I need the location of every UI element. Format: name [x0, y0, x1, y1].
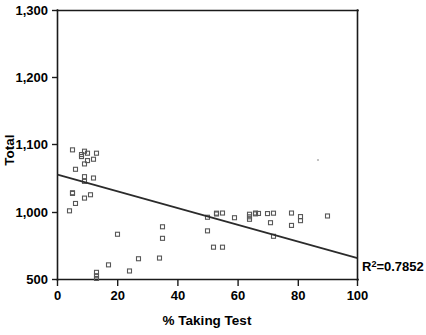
y-tick-label-500: 500 — [26, 272, 48, 287]
data-point — [299, 219, 303, 223]
data-point — [95, 151, 99, 155]
scatter-plot-figure: 1,300 1,200 1,100 1,000 500 0 20 40 60 8… — [0, 0, 426, 335]
data-point — [269, 221, 273, 225]
plot-canvas: 1,300 1,200 1,100 1,000 500 0 20 40 60 8… — [0, 0, 426, 335]
y-axis-tick-labels: 1,300 1,200 1,100 1,000 500 — [15, 3, 48, 287]
data-point — [290, 211, 294, 215]
y-tick-label-1200: 1,200 — [15, 70, 48, 85]
x-axis-tick-labels: 0 20 40 60 80 100 — [54, 288, 368, 303]
regression-trend-line — [58, 175, 358, 258]
data-point — [83, 196, 87, 200]
y-tick-label-1300: 1,300 — [15, 3, 48, 18]
y-tick-label-1000: 1,000 — [15, 205, 48, 220]
data-point — [128, 269, 132, 273]
x-tick-label-80: 80 — [291, 288, 305, 303]
data-point — [83, 175, 87, 179]
data-point — [89, 193, 93, 197]
data-point — [272, 211, 276, 215]
x-tick-label-0: 0 — [54, 288, 61, 303]
y-tick-label-1100: 1,100 — [15, 137, 48, 152]
print-speck-artifact — [317, 159, 319, 161]
data-point — [221, 211, 225, 215]
data-point — [92, 176, 96, 180]
data-point — [266, 212, 270, 216]
data-point — [161, 236, 165, 240]
x-tick-label-60: 60 — [231, 288, 245, 303]
data-point — [116, 232, 120, 236]
data-point — [158, 256, 162, 260]
x-axis-ticks — [58, 280, 358, 287]
data-point — [212, 245, 216, 249]
data-point — [206, 229, 210, 233]
data-point — [221, 245, 225, 249]
data-point — [326, 214, 330, 218]
data-point — [74, 167, 78, 171]
axis-frame — [58, 10, 359, 280]
data-point — [299, 215, 303, 219]
r-squared-suffix: =0.7852 — [376, 259, 423, 274]
r-squared-annotation: R2=0.7852 — [362, 259, 424, 274]
data-point — [290, 223, 294, 227]
x-axis-title: % Taking Test — [163, 313, 252, 328]
x-tick-label-100: 100 — [347, 288, 369, 303]
y-axis-ticks — [52, 11, 58, 280]
data-point — [107, 263, 111, 267]
y-axis-title: Total — [2, 134, 17, 165]
data-point — [161, 225, 165, 229]
data-point — [233, 216, 237, 220]
x-tick-label-20: 20 — [110, 288, 124, 303]
data-point — [71, 148, 75, 152]
data-point — [74, 201, 78, 205]
data-point — [68, 209, 72, 213]
data-point — [137, 257, 141, 261]
x-tick-label-40: 40 — [171, 288, 185, 303]
data-point — [92, 157, 96, 161]
